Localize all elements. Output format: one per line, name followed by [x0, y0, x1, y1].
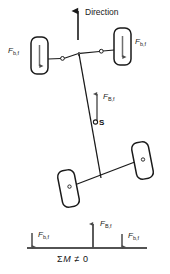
equation-m-symbol: M — [63, 254, 71, 264]
moment-center-force-label: FB,f — [100, 220, 112, 228]
right-front-wheel — [114, 28, 131, 65]
axle-center-force-label: FB,f — [103, 93, 115, 101]
left-front-force-label: Fb,f — [8, 47, 19, 55]
center-of-gravity-point — [93, 120, 97, 124]
equation-value: 0 — [83, 254, 89, 264]
right-rear-wheel — [131, 141, 155, 181]
direction-label: Direction — [85, 7, 119, 17]
rear-axle-assembly — [57, 141, 155, 209]
moment-right-force-subscript: b,f — [133, 235, 139, 241]
axle-center-force-subscript: B,f — [108, 96, 115, 102]
center-point-label: S — [99, 118, 104, 127]
left-front-wheel — [31, 37, 48, 74]
right-front-force-label: Fb,f — [135, 38, 146, 46]
left-rear-wheel — [57, 169, 81, 209]
moment-left-force-label: Fb,f — [38, 231, 49, 239]
moment-right-force-label: Fb,f — [128, 232, 139, 240]
right-front-force-subscript: b,f — [140, 41, 146, 47]
left-front-force-subscript: b,f — [13, 50, 19, 56]
moment-equation: ΣM ≠ 0 — [57, 254, 89, 264]
moment-left-force-subscript: b,f — [43, 234, 49, 240]
figure-canvas: Direction Fb,f Fb,f FB,f S Fb,f FB,f Fb,… — [0, 0, 170, 274]
moment-center-force-subscript: B,f — [105, 223, 112, 229]
equation-relation-symbol: ≠ — [74, 254, 80, 264]
